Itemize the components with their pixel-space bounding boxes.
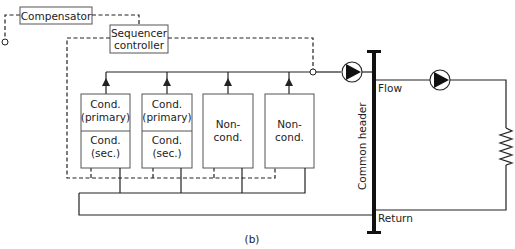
- boiler-4: Non- cond.: [265, 94, 314, 168]
- return-label: Return: [378, 212, 413, 224]
- outdoor-sensor-icon: [2, 39, 8, 45]
- boiler-4-line1: Non-: [277, 118, 302, 130]
- return-line: [376, 165, 506, 210]
- boiler-1-bottom-line2: (sec.): [91, 147, 120, 159]
- common-header-bar: [372, 51, 376, 232]
- compensator-sensor-link: [5, 15, 20, 39]
- compensator-label: Compensator: [21, 10, 92, 22]
- header-cap-top: [367, 50, 381, 53]
- sequencer-label-line1: Sequencer: [111, 27, 168, 39]
- flow-sensor-icon: [310, 69, 316, 75]
- primary-pump-icon: [342, 62, 362, 82]
- boiler-3-line2: cond.: [214, 131, 243, 143]
- header-cap-bottom: [367, 231, 381, 234]
- common-header-label: Common header: [356, 102, 368, 190]
- boiler-3-line1: Non-: [216, 118, 241, 130]
- compensator-sequencer-link: [92, 15, 139, 25]
- flow-to-load: [450, 80, 506, 128]
- boiler-2: Cond. (primary) Cond. (sec.): [142, 94, 192, 168]
- boiler-1: Cond. (primary) Cond. (sec.): [81, 94, 130, 168]
- boiler-2-top-line1: Cond.: [152, 98, 182, 110]
- boiler-return-bus: [120, 168, 305, 193]
- boiler-2-bottom-line1: Cond.: [152, 134, 182, 146]
- boiler-4-line2: cond.: [275, 131, 304, 143]
- secondary-pump-icon: [430, 70, 450, 90]
- boiler-1-top-line1: Cond.: [90, 98, 120, 110]
- arrow-up-icon: [224, 78, 232, 86]
- boiler-3: Non- cond.: [203, 94, 253, 168]
- return-to-header-line: [79, 193, 374, 215]
- boiler-1-bottom-line1: Cond.: [90, 134, 120, 146]
- arrow-up-icon: [102, 78, 110, 86]
- boiler-1-top-line2: (primary): [81, 111, 130, 123]
- boiler-2-bottom-line2: (sec.): [152, 147, 181, 159]
- load-resistor-icon: [500, 128, 512, 165]
- boiler-2-top-line2: (primary): [142, 111, 191, 123]
- figure-caption: (b): [245, 233, 260, 245]
- boiler-sequencing-diagram: Compensator Sequencer controller Cond. (…: [0, 0, 515, 249]
- boiler-outlet-arrows: [102, 72, 293, 94]
- arrow-up-icon: [285, 78, 293, 86]
- sequencer-label-line2: controller: [114, 39, 165, 51]
- flow-label: Flow: [378, 82, 402, 94]
- sequencer-flow-sensor-link: [168, 38, 313, 69]
- arrow-up-icon: [163, 78, 171, 86]
